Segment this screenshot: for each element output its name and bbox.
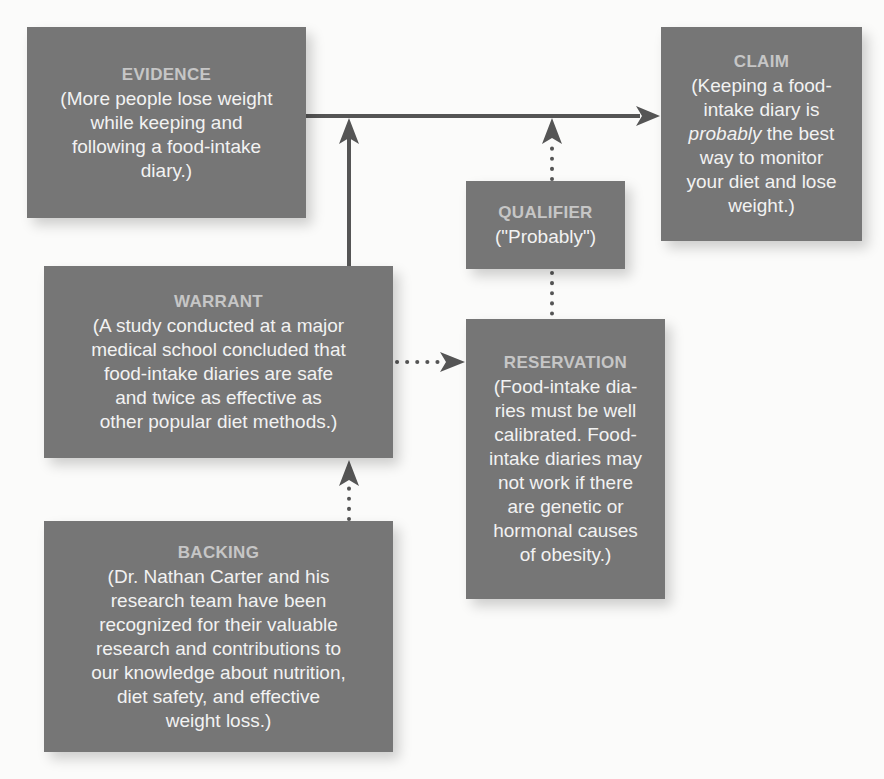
warrant-to-reservation-arrow [397,352,465,372]
claim-text-before: (Keeping a food- intake diary is [691,75,832,120]
qualifier-text: ("Probably") [495,225,596,249]
claim-title: CLAIM [734,50,789,74]
warrant-to-line-arrow [339,118,359,266]
evidence-text: (More people lose weight while keeping a… [60,87,272,183]
evidence-to-claim-arrow [306,106,660,126]
reservation-text: (Food-intake dia- ries must be well cali… [489,375,642,567]
warrant-box: WARRANT (A study conducted at a major me… [44,266,393,458]
backing-to-warrant-arrow [339,460,359,519]
qualifier-title: QUALIFIER [498,201,592,225]
backing-title: BACKING [178,541,259,565]
reservation-title: RESERVATION [504,351,627,375]
warrant-text: (A study conducted at a major medical sc… [91,314,346,434]
claim-text: (Keeping a food- intake diary is probabl… [687,74,837,218]
warrant-title: WARRANT [174,290,263,314]
backing-text: (Dr. Nathan Carter and his research team… [91,565,346,733]
claim-text-emphasis: probably [689,123,762,144]
evidence-box: EVIDENCE (More people lose weight while … [27,27,306,218]
backing-box: BACKING (Dr. Nathan Carter and his resea… [44,521,393,752]
qualifier-box: QUALIFIER ("Probably") [466,181,625,269]
evidence-title: EVIDENCE [122,63,211,87]
claim-box: CLAIM (Keeping a food- intake diary is p… [661,27,862,241]
qualifier-to-line-arrow [542,118,562,179]
reservation-box: RESERVATION (Food-intake dia- ries must … [466,319,665,599]
